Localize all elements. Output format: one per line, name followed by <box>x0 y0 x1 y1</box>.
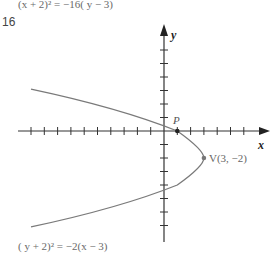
y-axis-label: y <box>169 28 177 42</box>
parabola-graph: y x P V(3, −2) <box>0 0 271 260</box>
point-p-label: P <box>172 114 180 126</box>
y-axis-arrow-icon <box>160 24 168 36</box>
footer-equation: ( y + 2)² = −2(x − 3) <box>18 240 108 252</box>
x-axis-arrow-icon <box>259 127 270 135</box>
y-axis <box>160 24 168 242</box>
vertex-marker <box>202 156 207 161</box>
parabola-curve <box>31 89 204 227</box>
point-p-marker <box>175 129 180 134</box>
x-axis <box>18 127 270 135</box>
x-axis-label: x <box>257 138 264 152</box>
vertex-label: V(3, −2) <box>209 152 247 165</box>
